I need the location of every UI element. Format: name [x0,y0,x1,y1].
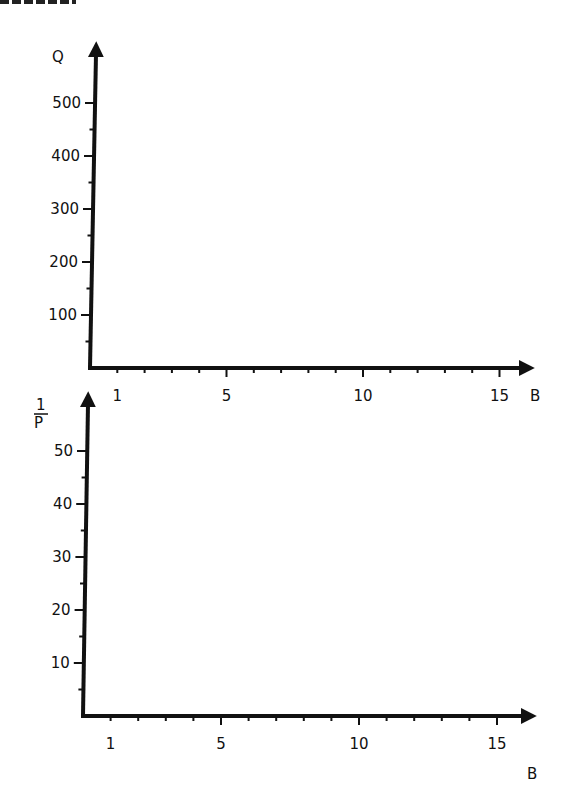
x-tick-label: 5 [222,387,232,405]
y-tick-label: 300 [50,200,79,218]
y-tick-label: 40 [53,495,72,513]
top-y-axis [90,54,96,368]
fraction-denominator: P [34,414,43,432]
top-y-ticks: 100200300400500 [48,94,95,342]
x-tick-label: 1 [113,387,123,405]
top-x-axis-label: B [530,387,540,405]
fraction-numerator: 1 [36,396,46,414]
top-y-axis-label: Q [52,48,64,66]
y-tick-label: 50 [54,442,73,460]
bottom-x-axis-label: B [527,765,537,783]
x-tick-label: 1 [106,735,116,753]
x-tick-label: 10 [353,387,372,405]
top-plot: 100200300400500 151015 Q B [48,48,540,405]
bottom-plot: 1020304050 151015 1 P B [34,396,537,783]
y-tick-label: 200 [49,253,78,271]
bottom-y-ticks: 1020304050 [51,442,87,690]
bottom-x-ticks: 151015 [106,716,507,753]
chart-canvas: 100200300400500 151015 Q B 1020304050 15… [0,0,572,791]
x-tick-label: 10 [349,735,368,753]
y-tick-label: 500 [52,94,81,112]
x-tick-label: 5 [216,735,226,753]
top-x-ticks: 151015 [113,368,510,405]
y-tick-label: 400 [51,147,80,165]
y-tick-label: 10 [51,654,70,672]
bottom-y-axis-label: 1 P [34,396,48,432]
y-tick-label: 30 [52,548,71,566]
x-tick-label: 15 [487,735,506,753]
y-tick-label: 100 [48,306,77,324]
y-tick-label: 20 [52,601,71,619]
x-tick-label: 15 [490,387,509,405]
